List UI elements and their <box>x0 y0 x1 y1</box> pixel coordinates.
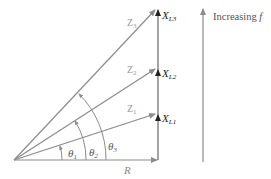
z3-label: Z3 <box>127 17 137 30</box>
xl2-label: XL2 <box>161 67 177 81</box>
z1-label: Z1 <box>127 103 137 116</box>
z2-label: Z2 <box>127 64 137 77</box>
resistance-label: R <box>123 164 131 176</box>
increasing-f-label: Increasing f <box>213 11 264 22</box>
theta2-label: θ2 <box>89 146 98 160</box>
impedance-diagram: R Z1 Z2 Z3 XL1 XL2 XL3 θ1 θ2 θ3 Increasi… <box>0 0 271 179</box>
xl1-label: XL1 <box>161 112 176 126</box>
theta1-arc <box>60 146 62 160</box>
theta3-label: θ3 <box>108 140 117 154</box>
xl3-label: XL3 <box>161 9 177 23</box>
theta1-label: θ1 <box>68 147 77 161</box>
